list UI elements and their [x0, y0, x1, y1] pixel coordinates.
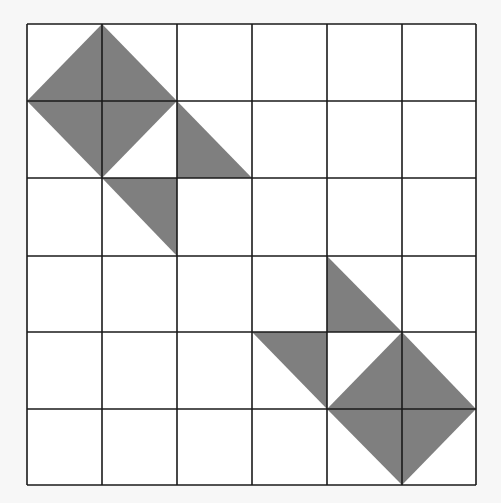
grid-diagram: [0, 0, 501, 503]
